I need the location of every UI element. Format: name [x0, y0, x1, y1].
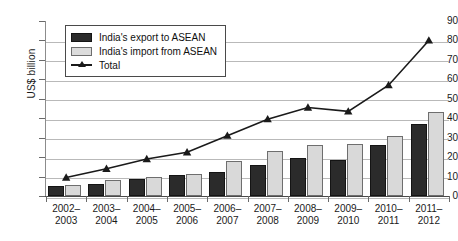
total-line-marker [304, 103, 312, 110]
x-tick-label-line: 2010 [325, 215, 371, 227]
x-tick-label: 2004–2005 [124, 203, 170, 227]
x-axis-separator [207, 196, 208, 202]
x-tick-label-line: 2008 [245, 215, 291, 227]
y-axis-title: US$ billion [26, 19, 37, 129]
x-tick-label-line: 2006– [204, 203, 250, 215]
x-axis-separator [288, 196, 289, 202]
x-axis-separator [449, 196, 450, 202]
x-axis-separator [167, 196, 168, 202]
x-tick-label: 2008–2009 [285, 203, 331, 227]
x-tick-label: 2002–2003 [43, 203, 89, 227]
legend-item-total: Total [71, 58, 217, 72]
legend-label-export: India's export to ASEAN [99, 32, 205, 43]
x-tick-label-line: 2010– [366, 203, 412, 215]
legend-item-export: India's export to ASEAN [71, 30, 217, 44]
x-tick-label-line: 2008– [285, 203, 331, 215]
x-axis-separator [368, 196, 369, 202]
x-tick-label: 2009–2010 [325, 203, 371, 227]
x-tick-label-line: 2011 [366, 215, 412, 227]
x-tick-label-line: 2005 [124, 215, 170, 227]
x-tick-label-line: 2003 [43, 215, 89, 227]
x-tick-label-line: 2007 [204, 215, 250, 227]
x-axis-separator [409, 196, 410, 202]
x-axis-separator [127, 196, 128, 202]
legend-item-import: India's import from ASEAN [71, 44, 217, 58]
x-tick-label-line: 2004 [83, 215, 129, 227]
x-tick-label: 2007–2008 [245, 203, 291, 227]
x-tick-label-line: 2011– [406, 203, 452, 215]
x-tick-label: 2011–2012 [406, 203, 452, 227]
legend-label-import: India's import from ASEAN [99, 46, 217, 57]
legend-swatch-export-icon [71, 33, 92, 42]
x-tick-label: 2003–2004 [83, 203, 129, 227]
x-tick-label: 2005–2006 [164, 203, 210, 227]
x-tick-label-line: 2006 [164, 215, 210, 227]
legend-swatch-total-icon [71, 60, 92, 70]
chart-container: US$ billion 0102030405060708090 2002–200… [0, 0, 458, 241]
x-tick-label-line: 2009– [325, 203, 371, 215]
x-tick-label-line: 2005– [164, 203, 210, 215]
x-tick-label-line: 2004– [124, 203, 170, 215]
x-tick-label-line: 2002– [43, 203, 89, 215]
x-tick-label-line: 2012 [406, 215, 452, 227]
x-tick-label: 2006–2007 [204, 203, 250, 227]
x-axis-separator [328, 196, 329, 202]
x-axis-separator [248, 196, 249, 202]
chart-legend: India's export to ASEAN India's import f… [65, 25, 226, 77]
legend-swatch-import-icon [71, 47, 92, 56]
x-axis-separator [46, 196, 47, 202]
x-tick-label: 2010–2011 [366, 203, 412, 227]
x-tick-label-line: 2009 [285, 215, 331, 227]
x-axis-separator [86, 196, 87, 202]
legend-label-total: Total [99, 60, 120, 71]
x-tick-label-line: 2007– [245, 203, 291, 215]
x-tick-label-line: 2003– [83, 203, 129, 215]
total-line-marker [425, 36, 433, 43]
